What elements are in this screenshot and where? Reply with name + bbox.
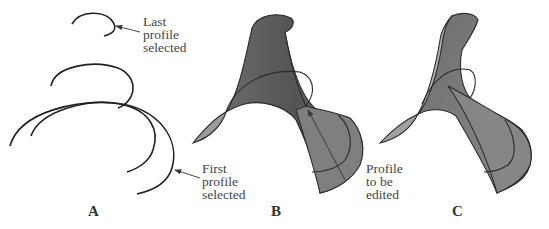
last-profile-arrow xyxy=(116,26,140,32)
inner-profile-curve xyxy=(31,102,155,172)
first-profile-curve xyxy=(10,102,174,194)
figure-canvas xyxy=(0,0,549,229)
last-profile-callout: Last profile selected xyxy=(143,15,186,54)
panel-label-a: A xyxy=(88,203,99,220)
middle-profile-curve xyxy=(51,64,133,108)
first-profile-arrow xyxy=(175,170,200,178)
first-profile-callout: First profile selected xyxy=(202,162,245,201)
last-profile-curve xyxy=(72,13,115,36)
panel-label-b: B xyxy=(271,203,281,220)
profile-to-edit-callout: Profile to be edited xyxy=(366,162,403,201)
panel-label-c: C xyxy=(452,203,463,220)
